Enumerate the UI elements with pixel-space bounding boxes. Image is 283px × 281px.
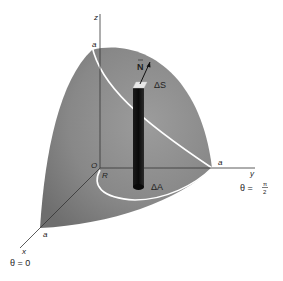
y-intercept-label: a — [218, 158, 223, 167]
sphere-octant-diagram: z a O R a y a x θ = 0 θ = π 2 N ΔS ΔA — [0, 0, 283, 281]
normal-label: N — [137, 62, 144, 72]
delta-a-label: ΔA — [151, 182, 163, 192]
delta-s-label: ΔS — [154, 80, 166, 90]
column-bottom — [133, 184, 144, 190]
z-intercept-label: a — [92, 40, 97, 49]
z-axis-label: z — [93, 13, 98, 22]
x-intercept-label: a — [43, 230, 48, 239]
x-axis-label: x — [21, 247, 27, 256]
theta-half-pi-denominator: 2 — [263, 189, 267, 195]
column-body — [133, 88, 144, 187]
sphere-surface — [40, 48, 212, 228]
theta-half-pi-numerator: π — [263, 181, 267, 187]
theta-zero-label: θ = 0 — [10, 258, 30, 268]
origin-label: O — [91, 161, 97, 170]
y-axis-label: y — [249, 169, 255, 178]
region-label: R — [102, 171, 108, 180]
theta-half-pi-label: θ = — [240, 183, 253, 193]
